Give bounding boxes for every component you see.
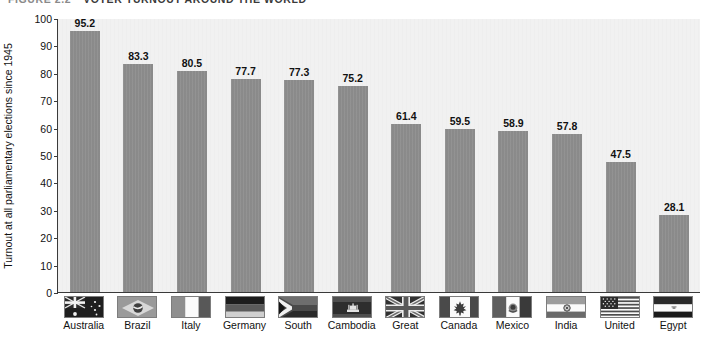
- flag-great-britain-icon: [385, 296, 425, 318]
- bar-value-label: 80.5: [182, 57, 202, 69]
- bar[interactable]: [606, 162, 636, 292]
- flag-cell: [164, 296, 218, 318]
- bar-slot: 61.4: [380, 19, 434, 292]
- bar[interactable]: [231, 79, 261, 292]
- bar-slot: 47.5: [594, 19, 648, 292]
- bar-slot: 77.7: [219, 19, 273, 292]
- y-axis-title: Turnout at all parliamentary elections s…: [0, 18, 16, 294]
- category-label-row: AustraliaBrazilItalyGermanySouthCambodia…: [57, 319, 700, 335]
- bar-value-label: 61.4: [396, 110, 416, 122]
- category-label: Cambodia: [325, 319, 379, 331]
- bar-slot: 28.1: [647, 19, 701, 292]
- bar[interactable]: [177, 71, 207, 292]
- y-tick-label: 80: [28, 68, 52, 80]
- bar-value-label: 77.7: [235, 65, 255, 77]
- bar[interactable]: [284, 80, 314, 292]
- bar-slot: 83.3: [112, 19, 166, 292]
- bar[interactable]: [498, 131, 528, 292]
- flag-cell: [593, 296, 647, 318]
- category-label: Brazil: [111, 319, 165, 331]
- flag-brazil-icon: [117, 296, 157, 318]
- bar-value-label: 47.5: [610, 148, 630, 160]
- category-label: Canada: [432, 319, 486, 331]
- flag-cell: [539, 296, 593, 318]
- bar-value-label: 83.3: [128, 50, 148, 62]
- y-tick-mark: [54, 293, 58, 294]
- flag-cambodia-icon: [332, 296, 372, 318]
- category-label: South: [271, 319, 325, 331]
- category-label: Great: [379, 319, 433, 331]
- flag-mexico-icon: [492, 296, 532, 318]
- bar[interactable]: [659, 215, 689, 292]
- flag-cell: [646, 296, 700, 318]
- flag-australia-icon: [64, 296, 104, 318]
- bar-value-label: 75.2: [342, 72, 362, 84]
- y-tick-label: 30: [28, 205, 52, 217]
- bar-value-label: 95.2: [75, 17, 95, 29]
- flag-canada-icon: [439, 296, 479, 318]
- bar[interactable]: [445, 129, 475, 292]
- flag-india-icon: [546, 296, 586, 318]
- bar-slot: 59.5: [433, 19, 487, 292]
- bar-slot: 95.2: [58, 19, 112, 292]
- y-axis-title-text: Turnout at all parliamentary elections s…: [2, 43, 14, 268]
- bar-value-label: 58.9: [503, 117, 523, 129]
- bar[interactable]: [391, 124, 421, 292]
- bar-value-label: 57.8: [557, 120, 577, 132]
- bar-slot: 57.8: [540, 19, 594, 292]
- flag-germany-icon: [225, 296, 265, 318]
- y-tick-label: 10: [28, 260, 52, 272]
- y-tick-label: 60: [28, 123, 52, 135]
- bar-value-label: 77.3: [289, 66, 309, 78]
- category-label: Italy: [164, 319, 218, 331]
- flag-cell: [379, 296, 433, 318]
- flag-south-africa-icon: [278, 296, 318, 318]
- bar-value-label: 28.1: [664, 201, 684, 213]
- y-tick-label: 90: [28, 40, 52, 52]
- bar[interactable]: [123, 64, 153, 292]
- category-label: Egypt: [646, 319, 700, 331]
- y-tick-label: 50: [28, 150, 52, 162]
- category-label: Germany: [218, 319, 272, 331]
- bar[interactable]: [552, 134, 582, 292]
- flag-cell: [271, 296, 325, 318]
- y-tick-label: 20: [28, 232, 52, 244]
- bar-value-label: 59.5: [450, 115, 470, 127]
- figure-number: FIGURE 2.2: [8, 0, 71, 5]
- figure-title-text: VOTER TURNOUT AROUND THE WORLD: [83, 0, 307, 5]
- flag-row: [57, 296, 700, 318]
- y-tick-label: 40: [28, 177, 52, 189]
- flag-cell: [486, 296, 540, 318]
- bar[interactable]: [70, 31, 100, 292]
- flag-cell: [111, 296, 165, 318]
- bar-slot: 80.5: [165, 19, 219, 292]
- flag-italy-icon: [171, 296, 211, 318]
- flag-cell: [325, 296, 379, 318]
- bar-slot: 77.3: [272, 19, 326, 292]
- bar[interactable]: [338, 86, 368, 292]
- category-label: India: [539, 319, 593, 331]
- bar-slot: 75.2: [326, 19, 380, 292]
- category-label: Mexico: [486, 319, 540, 331]
- flag-united-states-icon: [600, 296, 640, 318]
- flag-egypt-icon: [653, 296, 693, 318]
- category-label: Australia: [57, 319, 111, 331]
- plot-area: 0102030405060708090100 95.283.380.577.77…: [57, 19, 700, 293]
- flag-cell: [57, 296, 111, 318]
- figure-container: FIGURE 2.2VOTER TURNOUT AROUND THE WORLD…: [0, 0, 706, 337]
- y-tick-label: 100: [28, 13, 52, 25]
- figure-title: FIGURE 2.2VOTER TURNOUT AROUND THE WORLD: [8, 0, 307, 5]
- bar-slot: 58.9: [487, 19, 541, 292]
- flag-cell: [218, 296, 272, 318]
- flag-cell: [432, 296, 486, 318]
- y-tick-label: 70: [28, 95, 52, 107]
- y-tick-label: 0: [28, 287, 52, 299]
- category-label: United: [593, 319, 647, 331]
